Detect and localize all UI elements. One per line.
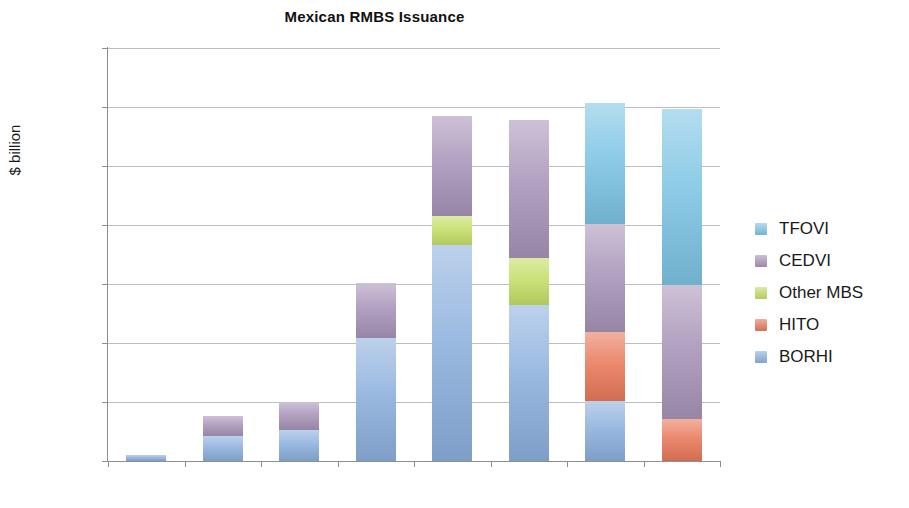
legend-swatch-icon: [755, 319, 767, 331]
y-tick-mark: [102, 48, 108, 49]
y-tick-mark: [102, 166, 108, 167]
bar-segment-2007-borhi[interactable]: [432, 245, 472, 461]
bar-segment-2009-borhi[interactable]: [585, 401, 625, 461]
legend-item-borhi[interactable]: BORHI: [755, 341, 863, 373]
bar-2004[interactable]: [203, 416, 243, 461]
bar-segment-2006-borhi[interactable]: [356, 338, 396, 461]
legend-swatch-icon: [755, 351, 767, 363]
bar-segment-2004-cedvi[interactable]: [203, 416, 243, 436]
chart-legend: TFOVICEDVIOther MBSHITOBORHI: [755, 213, 863, 373]
bar-segment-2005-borhi[interactable]: [279, 430, 319, 461]
legend-label: HITO: [779, 315, 819, 335]
x-tick-mark: [414, 461, 415, 467]
x-tick-mark: [185, 461, 186, 467]
gridline: [108, 284, 720, 285]
plot-area: 0500100015002000250030003500 20032004200…: [108, 48, 720, 461]
bar-segment-2008-borhi[interactable]: [509, 305, 549, 461]
gridline: [108, 402, 720, 403]
y-tick-mark: [102, 225, 108, 226]
bar-segment-2003-borhi[interactable]: [126, 455, 166, 461]
chart-container: Mexican RMBS Issuance $ billion 05001000…: [0, 0, 909, 508]
bar-2009[interactable]: [585, 103, 625, 461]
bar-2010[interactable]: [662, 109, 702, 461]
legend-swatch-icon: [755, 223, 767, 235]
bar-2006[interactable]: [356, 283, 396, 461]
legend-label: TFOVI: [779, 219, 829, 239]
bar-segment-2005-cedvi[interactable]: [279, 402, 319, 430]
legend-label: Other MBS: [779, 283, 863, 303]
gridline: [108, 225, 720, 226]
gridline: [108, 48, 720, 49]
legend-label: CEDVI: [779, 251, 831, 271]
bar-segment-2008-cedvi[interactable]: [509, 120, 549, 258]
y-tick-mark: [102, 284, 108, 285]
bar-segment-2010-cedvi[interactable]: [662, 285, 702, 418]
bar-2005[interactable]: [279, 402, 319, 461]
x-tick-mark: [567, 461, 568, 467]
gridline: [108, 343, 720, 344]
bar-segment-2010-tfovi[interactable]: [662, 109, 702, 285]
legend-item-tfovi[interactable]: TFOVI: [755, 213, 863, 245]
gridline: [108, 166, 720, 167]
x-tick-mark: [108, 461, 109, 467]
legend-item-other-mbs[interactable]: Other MBS: [755, 277, 863, 309]
y-tick-mark: [102, 343, 108, 344]
x-tick-mark: [491, 461, 492, 467]
bar-segment-2007-other-mbs[interactable]: [432, 216, 472, 246]
legend-swatch-icon: [755, 255, 767, 267]
bar-segment-2009-hito[interactable]: [585, 332, 625, 400]
y-tick-mark: [102, 107, 108, 108]
bar-segment-2009-cedvi[interactable]: [585, 224, 625, 333]
bar-2008[interactable]: [509, 120, 549, 461]
gridline: [108, 107, 720, 108]
y-axis-line: [107, 47, 108, 462]
x-tick-mark: [720, 461, 721, 467]
bar-segment-2009-tfovi[interactable]: [585, 103, 625, 223]
legend-item-cedvi[interactable]: CEDVI: [755, 245, 863, 277]
x-tick-mark: [338, 461, 339, 467]
chart-title: Mexican RMBS Issuance: [0, 8, 749, 25]
bar-segment-2010-hito[interactable]: [662, 419, 702, 461]
bar-segment-2007-cedvi[interactable]: [432, 116, 472, 215]
bar-2003[interactable]: [126, 455, 166, 461]
x-tick-mark: [261, 461, 262, 467]
x-tick-mark: [644, 461, 645, 467]
legend-label: BORHI: [779, 347, 833, 367]
legend-swatch-icon: [755, 287, 767, 299]
legend-item-hito[interactable]: HITO: [755, 309, 863, 341]
bar-segment-2008-other-mbs[interactable]: [509, 258, 549, 305]
bar-segment-2006-cedvi[interactable]: [356, 283, 396, 338]
y-axis-label: $ billion: [6, 90, 23, 210]
bar-2007[interactable]: [432, 116, 472, 461]
bar-segment-2004-borhi[interactable]: [203, 436, 243, 461]
y-tick-mark: [102, 402, 108, 403]
